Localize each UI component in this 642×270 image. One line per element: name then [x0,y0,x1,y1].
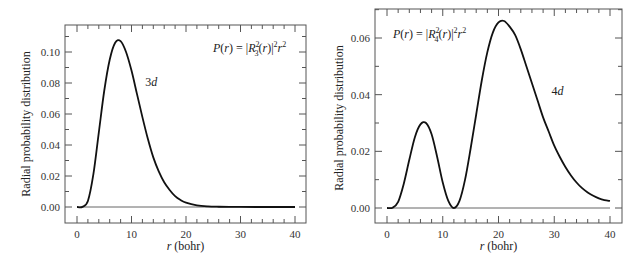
formula-label: P(r) = |R24(r)|2r2 [392,26,466,44]
x-axis-label: r (bohr) [167,239,205,253]
x-tick-label: 10 [126,228,138,240]
y-axis-label: Radial probability distribution [332,45,346,190]
y-tick-label: 0.06 [41,108,61,120]
x-tick-label: 30 [235,228,247,240]
x-tick-label: 40 [290,228,302,240]
figure: 0102030400.000.020.040.060.080.10r (bohr… [0,0,642,270]
y-tick-label: 0.10 [41,46,61,58]
x-tick-label: 0 [384,228,390,240]
y-tick-label: 0.08 [41,77,61,89]
y-tick-label: 0.02 [351,145,370,157]
x-tick-label: 10 [437,228,449,240]
y-tick-label: 0.00 [351,202,371,214]
y-tick-label: 0.04 [41,139,61,151]
formula-label: P(r) = |R23(r)|2r2 [212,40,286,58]
y-tick-label: 0.02 [41,170,60,182]
x-tick-label: 40 [605,228,617,240]
series-annotation: 3d [145,75,158,89]
chart-3d: 0102030400.000.020.040.060.080.10r (bohr… [19,25,306,253]
x-tick-label: 0 [74,228,80,240]
series-line-4d [387,21,610,209]
x-axis-label: r (bohr) [480,239,518,253]
series-line-3d [77,40,295,207]
chart-4d: 0102030400.000.020.040.06r (bohr)Radial … [332,9,622,253]
y-axis-label: Radial probability distribution [19,51,33,196]
series-annotation: 4d [551,84,564,98]
y-tick-label: 0.00 [41,201,61,213]
y-tick-label: 0.06 [351,32,371,44]
y-tick-label: 0.04 [351,89,371,101]
x-tick-label: 30 [549,228,561,240]
